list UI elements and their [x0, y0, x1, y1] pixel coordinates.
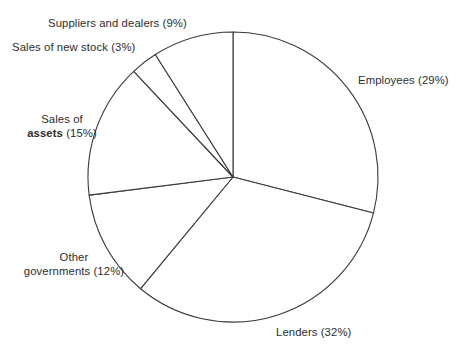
pie-chart: Suppliers and dealers (9%) Sales of new …	[0, 0, 469, 354]
pie-label-sales-of-assets-percent: (15%)	[63, 127, 97, 139]
pie-label-lenders: Lenders (32%)	[276, 325, 351, 339]
pie-slices-group	[88, 32, 378, 322]
pie-label-sales-of-new-stock: Sales of new stock (3%)	[12, 40, 135, 54]
pie-label-other-governments-line2: governments (12%)	[24, 265, 124, 277]
pie-label-other-governments: Other governments (12%)	[12, 250, 136, 278]
pie-label-sales-of-assets-word: assets	[27, 127, 63, 139]
pie-label-sales-of-assets-line1: Sales of	[41, 113, 83, 125]
pie-label-other-governments-line1: Other	[60, 251, 89, 263]
pie-label-suppliers-and-dealers: Suppliers and dealers (9%)	[48, 16, 187, 30]
pie-label-sales-of-assets: Sales of assets (15%)	[16, 112, 108, 140]
pie-label-employees: Employees (29%)	[358, 73, 449, 87]
